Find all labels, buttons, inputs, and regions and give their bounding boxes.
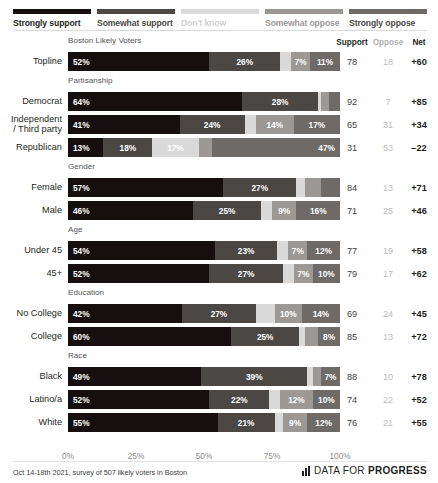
axis-tick-label: 50% — [196, 452, 212, 461]
row-label: Topline — [0, 52, 62, 71]
value-net: +55 — [404, 413, 434, 432]
column-header-oppose: Oppose — [372, 38, 404, 47]
bar-segment-dont-know — [296, 178, 304, 197]
bar-segment-somewhat-support: 24% — [180, 115, 245, 134]
value-support: 88 — [334, 367, 370, 386]
bar-segment-strongly-support: 42% — [68, 304, 182, 323]
poll-chart: Strongly supportSomewhat supportDon't kn… — [0, 0, 438, 483]
value-support: 71 — [334, 201, 370, 220]
bar-segment-somewhat-support: 25% — [193, 201, 261, 220]
stacked-bar: 54%23%7%12% — [68, 241, 340, 260]
value-net: +52 — [404, 390, 434, 409]
chart-row: Latino/a52%22%12%10%7422+52 — [0, 390, 438, 409]
bar-segment-strongly-support: 55% — [68, 413, 218, 432]
bar-segment-somewhat-support: 22% — [209, 390, 269, 409]
chart-row: 45+52%27%7%10%7917+62 — [0, 264, 438, 283]
stacked-bar: 46%25%9%16% — [68, 201, 340, 220]
value-oppose: 17 — [372, 264, 404, 283]
legend-item-dont-know: Don't know — [181, 9, 259, 28]
bar-segment-somewhat-oppose — [321, 92, 329, 111]
legend-label: Don't know — [181, 18, 259, 28]
legend-divider — [13, 30, 427, 31]
value-net: +46 — [404, 201, 434, 220]
group-title: Boston Likely Voters — [68, 36, 141, 45]
value-oppose: 13 — [372, 178, 404, 197]
stacked-bar: 49%39%7% — [68, 367, 340, 386]
row-label: Democrat — [0, 92, 62, 111]
bar-segment-strongly-support: 60% — [68, 327, 231, 346]
bar-segment-somewhat-support: 39% — [201, 367, 307, 386]
stacked-bar: 52%26%7%11% — [68, 52, 340, 71]
group-title: Race — [68, 351, 87, 360]
row-label: College — [0, 327, 62, 346]
axis-tick-label: 100% — [330, 452, 351, 461]
value-oppose: 18 — [372, 52, 404, 71]
bar-segment-somewhat-oppose — [305, 178, 321, 197]
x-axis: 0%25%50%75%100% — [0, 452, 438, 464]
bar-segment-somewhat-oppose: 10% — [275, 304, 302, 323]
column-header-net: Net — [404, 38, 434, 47]
value-net: +85 — [404, 92, 434, 111]
stacked-bar: 41%24%14%17% — [68, 115, 340, 134]
stacked-bar: 55%21%9%12% — [68, 413, 340, 432]
stacked-bar: 64%28% — [68, 92, 340, 111]
value-support: 65 — [334, 115, 370, 134]
value-oppose: 24 — [372, 304, 404, 323]
value-net: +62 — [404, 264, 434, 283]
bar-segment-dont-know — [277, 241, 288, 260]
bar-segment-somewhat-support: 26% — [209, 52, 280, 71]
value-oppose: 21 — [372, 413, 404, 432]
bar-segment-somewhat-support: 18% — [103, 138, 152, 157]
bar-segment-somewhat-oppose: 7% — [288, 241, 307, 260]
value-support: 78 — [334, 52, 370, 71]
row-label: Under 45 — [0, 241, 62, 260]
chart-row: Female57%27%8413+71 — [0, 178, 438, 197]
value-support: 92 — [334, 92, 370, 111]
value-net: +45 — [404, 304, 434, 323]
axis-tick-label: 0% — [62, 452, 74, 461]
bar-segment-strongly-support: 52% — [68, 390, 209, 409]
bar-chart-icon — [302, 466, 310, 476]
group-title: Partisanship — [68, 76, 113, 85]
bar-segment-dont-know — [283, 264, 294, 283]
bar-segment-dont-know — [275, 413, 283, 432]
stacked-bar: 52%27%7%10% — [68, 264, 340, 283]
value-oppose: 7 — [372, 92, 404, 111]
legend-label: Somewhat oppose — [265, 18, 343, 28]
chart-row: Topline52%26%7%11%7818+60 — [0, 52, 438, 71]
bar-segment-somewhat-oppose: 7% — [294, 264, 313, 283]
value-oppose: 25 — [372, 201, 404, 220]
bar-segment-strongly-support: 49% — [68, 367, 201, 386]
value-oppose: 22 — [372, 390, 404, 409]
bar-segment-dont-know — [269, 390, 280, 409]
chart-row: Male46%25%9%16%7125+46 — [0, 201, 438, 220]
legend-item-somewhat-support: Somewhat support — [97, 9, 175, 28]
stacked-bar: 13%18%17%47% — [68, 138, 340, 157]
legend-swatch-somewhat-support — [97, 9, 175, 14]
row-label: Latino/a — [0, 390, 62, 409]
bar-segment-somewhat-support: 27% — [182, 304, 255, 323]
bar-segment-somewhat-support: 28% — [242, 92, 318, 111]
chart-row: White55%21%9%12%7621+55 — [0, 413, 438, 432]
row-label: Independent/ Third party — [0, 115, 62, 134]
row-label-wrap: Independent/ Third party — [11, 115, 62, 134]
bar-segment-somewhat-oppose: 7% — [291, 52, 310, 71]
bar-segment-dont-know: 17% — [152, 138, 198, 157]
value-net: +34 — [404, 115, 434, 134]
value-oppose: 53 — [372, 138, 404, 157]
value-support: 77 — [334, 241, 370, 260]
bar-segment-somewhat-support: 23% — [215, 241, 278, 260]
bar-segment-somewhat-oppose — [199, 138, 213, 157]
axis-tick-label: 25% — [128, 452, 144, 461]
bar-segment-strongly-support: 41% — [68, 115, 180, 134]
stacked-bar: 60%25%8% — [68, 327, 340, 346]
value-support: 74 — [334, 390, 370, 409]
bar-segment-somewhat-oppose: 9% — [283, 413, 307, 432]
legend-label: Strongly support — [13, 18, 91, 28]
legend-label: Somewhat support — [97, 18, 175, 28]
row-label: Female — [0, 178, 62, 197]
value-support: 31 — [334, 138, 370, 157]
bar-segment-strongly-oppose: 47% — [212, 138, 340, 157]
column-header-support: Support — [334, 38, 370, 47]
bar-segment-somewhat-oppose: 9% — [272, 201, 296, 220]
